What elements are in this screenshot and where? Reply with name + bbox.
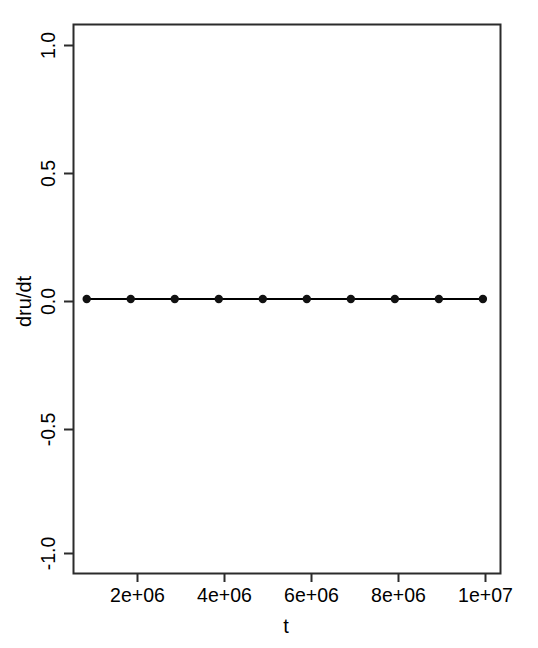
- y-tick-label-1: 1.0: [37, 32, 59, 59]
- data-point: [479, 295, 487, 303]
- data-point: [83, 295, 91, 303]
- data-point: [303, 295, 311, 303]
- x-tick-label-1: 2e+06: [110, 584, 165, 606]
- y-tick-label-5: -1.0: [37, 537, 59, 571]
- x-tick-label-2: 4e+06: [197, 584, 252, 606]
- x-tick-label-3: 6e+06: [284, 584, 339, 606]
- chart-canvas: 1.0 0.5 0.0 -0.5 -1.0 dru/dt 2e+06 4e+06…: [0, 0, 538, 648]
- y-axis-ticks: [64, 46, 73, 554]
- data-point: [215, 295, 223, 303]
- y-axis-tick-labels: 1.0 0.5 0.0 -0.5 -1.0: [37, 32, 59, 571]
- data-point: [391, 295, 399, 303]
- data-point: [435, 295, 443, 303]
- y-tick-label-4: -0.5: [37, 413, 59, 447]
- y-tick-label-2: 0.5: [37, 160, 59, 187]
- x-axis-title: t: [283, 615, 289, 637]
- data-point: [347, 295, 355, 303]
- data-series: [83, 295, 488, 303]
- data-point: [171, 295, 179, 303]
- y-tick-label-3: 0.0: [37, 288, 59, 315]
- x-axis-tick-labels: 2e+06 4e+06 6e+06 8e+06 1e+07: [110, 584, 513, 606]
- x-tick-label-5: 1e+07: [458, 584, 513, 606]
- x-tick-label-4: 8e+06: [371, 584, 426, 606]
- data-point: [259, 295, 267, 303]
- plot-figure: 1.0 0.5 0.0 -0.5 -1.0 dru/dt 2e+06 4e+06…: [0, 0, 538, 648]
- y-axis-title: dru/dt: [13, 275, 35, 327]
- data-point: [127, 295, 135, 303]
